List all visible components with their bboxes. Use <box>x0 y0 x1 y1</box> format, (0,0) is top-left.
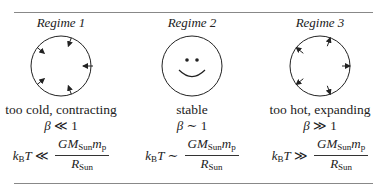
regime-3-equation: kBT ≫ GMSunmp RSun <box>256 137 383 174</box>
regime-3-column: Regime 3 too hot, expanding β ≫ 1 kBT ≫ … <box>256 14 383 174</box>
regime-1-equation: kBT ≪ GMSunmp RSun <box>0 137 125 174</box>
regime-1-column: Regime 1 too cold, contracting β ≪ 1 kBT… <box>0 14 125 174</box>
regime-1-title: Regime 1 <box>0 14 125 31</box>
regime-2-equation: kBT ∼ GMSunmp RSun <box>128 137 256 174</box>
regime-2-beta: β ∼ 1 <box>128 118 256 134</box>
smiley-face-icon <box>159 33 225 99</box>
regime-2-description: stable <box>128 102 256 118</box>
regime-1-description: too cold, contracting <box>0 102 125 118</box>
regime-2-title: Regime 2 <box>128 14 256 31</box>
regime-2-column: Regime 2 stable β ∼ 1 kBT ∼ GMSunmp RSun <box>128 14 256 174</box>
regime-3-beta: β ≫ 1 <box>256 118 383 134</box>
regime-3-description: too hot, expanding <box>256 102 383 118</box>
bottom-rule <box>14 183 373 184</box>
top-rule <box>14 12 373 13</box>
contracting-star-icon <box>28 33 94 99</box>
regime-3-title: Regime 3 <box>256 14 383 31</box>
regime-1-beta: β ≪ 1 <box>0 118 125 134</box>
expanding-star-icon <box>287 33 353 99</box>
